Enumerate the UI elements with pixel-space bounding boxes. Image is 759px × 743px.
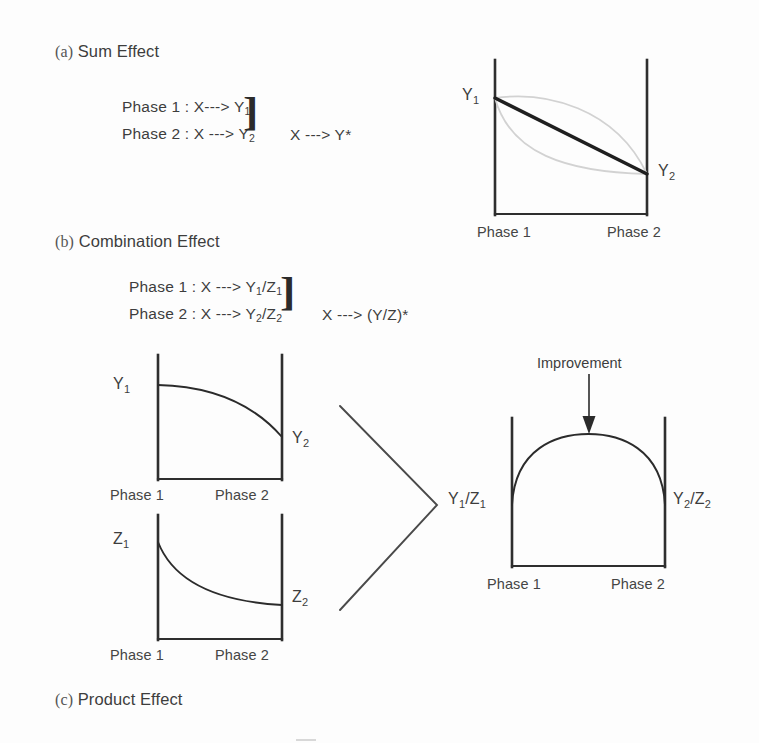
combination-formula-line-2: Phase 2 : X ---> Y2/Z2	[129, 301, 282, 328]
chart-ratio-tick-phase1: Phase 1	[487, 576, 541, 592]
section-caption-c: (c) Product Effect	[55, 690, 182, 709]
chart-y-start-label: Y1	[113, 375, 130, 393]
chart-z-tick-phase2: Phase 2	[215, 647, 269, 663]
z-measure-chart	[140, 512, 310, 652]
combination-formula-line-1-sub1: 1	[256, 285, 262, 297]
arrow-down-icon	[583, 416, 596, 434]
chart-z-start-label: Z1	[113, 530, 129, 548]
chart-ratio-start-label-sub2: 1	[480, 498, 486, 510]
chart-ratio-start-label-mid: /Z	[465, 490, 480, 507]
sum-formula-line-1: Phase 1 : X---> Y1	[122, 94, 255, 121]
chart-a-end-label: Y2	[658, 162, 675, 180]
section-enum-a: (a)	[55, 43, 73, 60]
chart-y-series	[158, 385, 282, 437]
section-title-c: Product Effect	[78, 690, 183, 708]
section-title-a: Sum Effect	[78, 42, 159, 60]
combination-formula-line-2-mid: /Z	[262, 305, 276, 322]
chart-z-start-label-text: Z	[113, 530, 123, 547]
chart-z-end-label: Z2	[292, 588, 308, 606]
chart-ratio-end-label-text: Y	[673, 490, 684, 507]
improvement-arrow	[576, 374, 602, 436]
chart-z-start-label-sub: 1	[123, 538, 129, 550]
chart-ratio-start-label-text: Y	[448, 490, 459, 507]
chevron-right-icon	[340, 406, 437, 610]
chart-ratio-series	[512, 434, 665, 505]
section-enum-b: (b)	[55, 233, 74, 250]
combination-formula-brace: ]	[280, 272, 295, 312]
combination-formula-line-1-mid: /Z	[262, 278, 276, 295]
combination-formula-result: X ---> (Y/Z)*	[322, 306, 409, 324]
chart-y-tick-phase1: Phase 1	[110, 487, 164, 503]
chart-a-end-label-sub: 2	[669, 170, 675, 182]
chart-ratio-end-label: Y2/Z2	[673, 490, 711, 508]
chart-a-tick-phase2: Phase 2	[607, 224, 661, 240]
chart-y-start-label-text: Y	[113, 375, 124, 392]
chart-y-end-label-sub: 2	[303, 437, 309, 449]
y-measure-chart	[140, 352, 310, 492]
sum-formula-brace: ]	[243, 92, 258, 132]
section-caption-b: (b) Combination Effect	[55, 232, 220, 251]
sum-effect-chart	[470, 55, 690, 225]
chart-ratio-end-label-sub1: 2	[684, 498, 690, 510]
combination-formula-line-2-sub1: 2	[256, 312, 262, 324]
chart-a-start-label: Y1	[462, 86, 479, 104]
chart-ratio-start-label: Y1/Z1	[448, 490, 486, 508]
chart-ratio-end-label-sub2: 2	[705, 498, 711, 510]
chart-z-end-label-sub: 2	[302, 596, 308, 608]
sum-formula-line-2: Phase 2 : X ---> Y2	[122, 121, 255, 148]
section-enum-c: (c)	[55, 691, 73, 708]
chart-z-series	[158, 542, 282, 605]
chart-a-start-label-sub: 1	[473, 94, 479, 106]
combination-connector	[330, 398, 450, 618]
section-caption-a: (a) Sum Effect	[55, 42, 159, 61]
improvement-label: Improvement	[537, 355, 622, 371]
chart-a-tick-phase1: Phase 1	[477, 224, 531, 240]
ratio-improvement-chart	[495, 415, 690, 580]
section-title-b: Combination Effect	[79, 232, 220, 250]
chart-z-end-label-text: Z	[292, 588, 302, 605]
sum-formula-line-2-text: Phase 2 : X ---> Y	[122, 125, 249, 142]
combination-formula-line-2-text: Phase 2 : X ---> Y	[129, 305, 256, 322]
chart-y-end-label: Y2	[292, 429, 309, 447]
combination-effect-formula: Phase 1 : X ---> Y1/Z1 Phase 2 : X ---> …	[129, 274, 282, 328]
chart-y-tick-phase2: Phase 2	[215, 487, 269, 503]
chart-ratio-end-label-mid: /Z	[690, 490, 705, 507]
chart-y-end-label-text: Y	[292, 429, 303, 446]
sum-formula-line-1-text: Phase 1 : X---> Y	[122, 98, 244, 115]
chart-a-start-label-text: Y	[462, 86, 473, 103]
combination-formula-line-1: Phase 1 : X ---> Y1/Z1	[129, 274, 282, 301]
figure-canvas: (a) Sum Effect Phase 1 : X---> Y1 Phase …	[0, 0, 759, 743]
chart-ratio-tick-phase2: Phase 2	[611, 576, 665, 592]
chart-ratio-start-label-sub1: 1	[459, 498, 465, 510]
combination-formula-line-1-text: Phase 1 : X ---> Y	[129, 278, 256, 295]
sum-formula-result: X ---> Y*	[290, 126, 351, 144]
chart-z-tick-phase1: Phase 1	[110, 647, 164, 663]
scan-artifact	[296, 739, 316, 741]
chart-a-end-label-text: Y	[658, 162, 669, 179]
sum-effect-formula: Phase 1 : X---> Y1 Phase 2 : X ---> Y2	[122, 94, 255, 148]
chart-y-start-label-sub: 1	[124, 383, 130, 395]
